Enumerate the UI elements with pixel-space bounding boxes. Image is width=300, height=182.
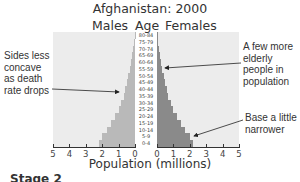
arrow-icon: [52, 89, 119, 92]
stage-heading: Stage 2: [10, 172, 62, 182]
arrow-icon: [165, 63, 241, 68]
annotation-arrows: [0, 0, 300, 182]
arrow-icon: [194, 120, 243, 136]
